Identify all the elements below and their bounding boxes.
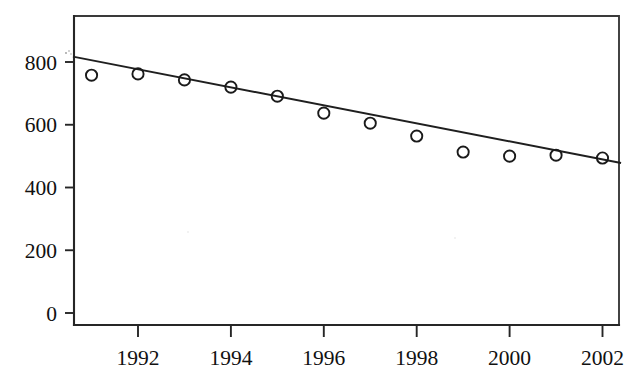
data-point-2000 bbox=[504, 151, 515, 162]
y-tick-label-800: 800 bbox=[25, 51, 57, 75]
data-point-1998 bbox=[411, 130, 422, 141]
data-point-1997 bbox=[365, 118, 376, 129]
x-tick-label-1996: 1996 bbox=[302, 346, 345, 370]
chart-container: 0200400600800 199219941996199820002002 bbox=[0, 0, 640, 386]
x-tick-label-1992: 1992 bbox=[117, 346, 160, 370]
data-point-1991 bbox=[86, 70, 97, 81]
data-points bbox=[86, 68, 608, 163]
x-tick-label-2002: 2002 bbox=[581, 346, 624, 370]
y-tick-label-0: 0 bbox=[46, 302, 57, 326]
y-tick-label-600: 600 bbox=[25, 113, 57, 137]
y-axis-ticks: 0200400600800 bbox=[25, 51, 74, 326]
data-point-1996 bbox=[318, 108, 329, 119]
x-axis-ticks: 199219941996199820002002 bbox=[117, 325, 625, 370]
scatter-plot-svg: 0200400600800 199219941996199820002002 bbox=[0, 0, 640, 386]
x-tick-label-1998: 1998 bbox=[395, 346, 438, 370]
trend-line bbox=[73, 57, 621, 163]
x-tick-label-1994: 1994 bbox=[209, 346, 252, 370]
scan-speckles bbox=[65, 50, 456, 239]
x-tick-label-2000: 2000 bbox=[488, 346, 531, 370]
plot-frame bbox=[74, 16, 619, 325]
y-tick-label-200: 200 bbox=[25, 239, 57, 263]
y-tick-label-400: 400 bbox=[25, 176, 57, 200]
data-point-1999 bbox=[458, 146, 469, 157]
